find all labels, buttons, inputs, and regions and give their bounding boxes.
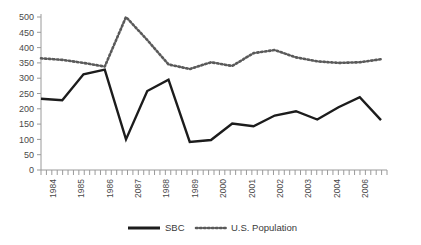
x-axis-tick-marks (41, 170, 387, 175)
x-tick-label: 2006 (360, 179, 370, 198)
x-tick-label: 1984 (48, 179, 58, 198)
y-axis-group: 050100150200250300350400450500 (19, 12, 41, 175)
line-chart: 050100150200250300350400450500 198419851… (0, 0, 421, 245)
y-tick-label: 400 (19, 43, 34, 53)
x-tick-label: 2002 (275, 179, 285, 198)
plot-series-group (41, 17, 381, 142)
legend-label-sbc: SBC (165, 222, 185, 233)
y-tick-label: 250 (19, 89, 34, 99)
x-axis-group: 1984198519862087198819892000200120022003… (41, 170, 387, 198)
x-axis-tick-labels: 1984198519862087198819892000200120022003… (48, 179, 370, 198)
legend-label-us-population: U.S. Population (231, 222, 297, 233)
x-tick-label: 2001 (247, 179, 257, 198)
x-tick-label: 2000 (218, 179, 228, 198)
y-tick-label: 100 (19, 135, 34, 145)
x-tick-label: 1986 (105, 179, 115, 198)
x-tick-label: 2004 (332, 179, 342, 198)
x-tick-label: 1989 (190, 179, 200, 198)
x-tick-label: 1988 (161, 179, 171, 198)
legend: SBC U.S. Population (128, 222, 297, 233)
y-tick-label: 500 (19, 12, 34, 22)
y-axis-tick-labels: 050100150200250300350400450500 (19, 12, 34, 175)
y-tick-label: 50 (24, 150, 34, 160)
y-tick-label: 350 (19, 58, 34, 68)
y-axis-tick-marks (37, 17, 41, 170)
x-tick-label: 2087 (133, 179, 143, 198)
y-tick-label: 150 (19, 119, 34, 129)
x-tick-label: 1985 (76, 179, 86, 198)
y-tick-label: 450 (19, 28, 34, 38)
y-tick-label: 200 (19, 104, 34, 114)
series-line-us-population (41, 17, 381, 69)
y-tick-label: 300 (19, 73, 34, 83)
chart-container: 050100150200250300350400450500 198419851… (0, 0, 421, 245)
y-tick-label: 0 (29, 165, 34, 175)
x-tick-label: 2003 (303, 179, 313, 198)
series-line-sbc (41, 70, 381, 142)
